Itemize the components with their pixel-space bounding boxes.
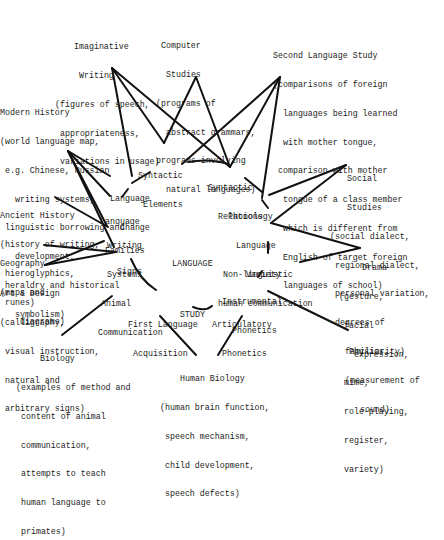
center-language-study: LANGUAGE STUDY (172, 222, 213, 358)
node-biology: Biology (examples of method and content … (16, 335, 131, 540)
topic-phonology: Phonology (228, 193, 273, 241)
node-human-biology: Human Biology (human brain function, spe… (160, 355, 270, 518)
node-social-studies: Social Studies (social dialect, regional… (330, 155, 430, 376)
